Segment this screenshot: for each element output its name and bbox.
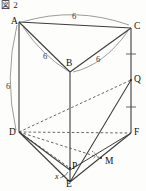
vertex-label-P: P — [72, 162, 77, 172]
segment-DP-solid — [19, 132, 70, 170]
segment-QP — [70, 80, 131, 182]
edge-AC — [19, 22, 131, 28]
segment-DM-hidden — [19, 132, 101, 158]
vertex-label-D: D — [9, 128, 16, 138]
arc-length-AD — [10, 25, 17, 130]
dot-P — [69, 167, 71, 169]
segment-DQ-hidden — [19, 80, 131, 132]
angle-label-x: x — [55, 173, 59, 181]
edge-AB — [19, 22, 70, 72]
measure-label-AB: 6 — [43, 52, 47, 61]
measure-label-AD: 6 — [6, 82, 10, 91]
figure-caption: 図 2 — [1, 0, 18, 10]
measure-label-AC: 6 — [72, 12, 76, 21]
vertex-label-Q: Q — [134, 75, 141, 85]
arc-length-BC — [73, 31, 128, 72]
vertex-label-A: A — [11, 17, 18, 27]
vertex-dots — [69, 79, 132, 169]
edge-BC — [70, 28, 131, 72]
vertex-label-M: M — [105, 157, 113, 167]
vertex-label-C: C — [134, 22, 140, 32]
measure-label-BC: 6 — [96, 55, 100, 64]
arc-length-AB — [23, 27, 68, 71]
edge-DE — [19, 132, 70, 182]
vertex-label-F: F — [134, 128, 139, 138]
top-face-edges — [19, 22, 131, 72]
figure-container: 図 2 A B C D E F P Q M 6 6 6 6 x — [0, 0, 146, 191]
vertex-label-B: B — [66, 59, 72, 69]
vertex-label-E: E — [66, 180, 72, 190]
edge-DF-hidden — [19, 132, 131, 133]
dot-M — [100, 157, 102, 159]
lateral-edges — [19, 22, 131, 182]
dot-Q — [130, 79, 132, 81]
